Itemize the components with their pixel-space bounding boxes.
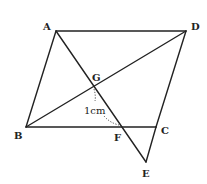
segment-CE — [146, 127, 156, 162]
measurement-arc-top — [94, 89, 95, 101]
label-G: G — [92, 72, 101, 83]
segment-BD — [26, 31, 186, 127]
measurement-label: 1cm — [84, 105, 106, 116]
label-A: A — [42, 21, 51, 32]
segment-DC — [156, 31, 186, 127]
label-C: C — [161, 125, 169, 136]
label-B: B — [14, 130, 22, 141]
segment-AB — [26, 31, 56, 127]
label-D: D — [191, 21, 200, 32]
label-F: F — [114, 132, 121, 143]
segment-AE — [56, 31, 146, 162]
label-E: E — [142, 168, 150, 179]
geometry-diagram: A D G B C F E 1cm — [0, 0, 207, 184]
